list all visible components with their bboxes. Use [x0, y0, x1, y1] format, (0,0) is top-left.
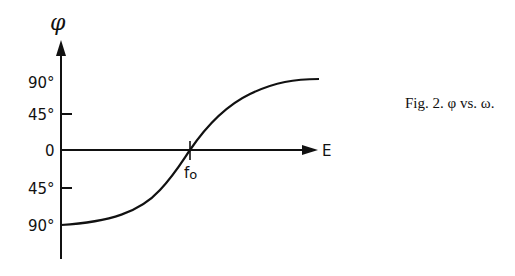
y-axis-arrow-icon	[56, 40, 66, 56]
y-tick-label-90-top: 90°	[28, 74, 55, 92]
y-tick-label-90-bottom: 90°	[28, 217, 55, 235]
x-tick-label-f0: fo	[184, 164, 197, 182]
x-axis-arrow-icon	[302, 145, 318, 155]
figure-caption: Fig. 2. φ vs. ω.	[405, 95, 494, 111]
y-axis-label: φ	[50, 10, 66, 35]
y-tick-label-45-top: 45°	[28, 106, 55, 124]
y-tick-label-45-bottom: 45°	[28, 180, 55, 198]
x-axis-label: E	[322, 142, 331, 160]
phase-chart: φ E 90° 45° 0 45° 90° fo Fig. 2. φ vs. ω…	[0, 0, 515, 276]
y-tick-label-0: 0	[45, 142, 55, 160]
